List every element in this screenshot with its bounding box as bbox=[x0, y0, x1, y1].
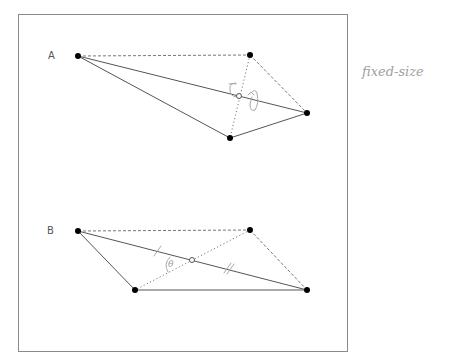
center-point-a bbox=[237, 94, 242, 99]
edge-b-top-dashed bbox=[78, 230, 250, 231]
vertex-a4 bbox=[227, 135, 233, 141]
edge-b-right-dashed bbox=[250, 230, 307, 290]
figure-b-label: B bbox=[47, 225, 54, 236]
edge-a-top-dashed bbox=[78, 55, 250, 56]
angle-theta-label: θ bbox=[168, 259, 174, 269]
vertex-b2 bbox=[247, 227, 253, 233]
figure-a: A bbox=[48, 50, 310, 141]
figure-b: B θ bbox=[47, 225, 310, 293]
figure-a-label: A bbox=[48, 50, 55, 61]
edge-a-left-solid bbox=[78, 56, 230, 138]
center-point-b bbox=[190, 258, 195, 263]
equal-tick-mark-right-icon bbox=[224, 263, 231, 273]
equal-tick-mark-right-2-icon bbox=[227, 264, 234, 274]
vertex-b4 bbox=[132, 287, 138, 293]
handwritten-annotation: fixed-size bbox=[361, 64, 424, 79]
diagram-canvas: A B θ fi bbox=[0, 0, 453, 364]
edge-b-left-solid bbox=[78, 231, 135, 290]
edge-a-bottom-solid bbox=[230, 113, 307, 138]
vertex-a2 bbox=[247, 52, 253, 58]
vertex-a3 bbox=[304, 110, 310, 116]
diagram-frame bbox=[19, 15, 348, 352]
vertex-a1 bbox=[75, 53, 81, 59]
edge-a-right-dashed bbox=[250, 55, 307, 113]
vertex-b1 bbox=[75, 228, 81, 234]
vertex-b3 bbox=[304, 287, 310, 293]
diagonal-a-solid bbox=[78, 56, 307, 113]
